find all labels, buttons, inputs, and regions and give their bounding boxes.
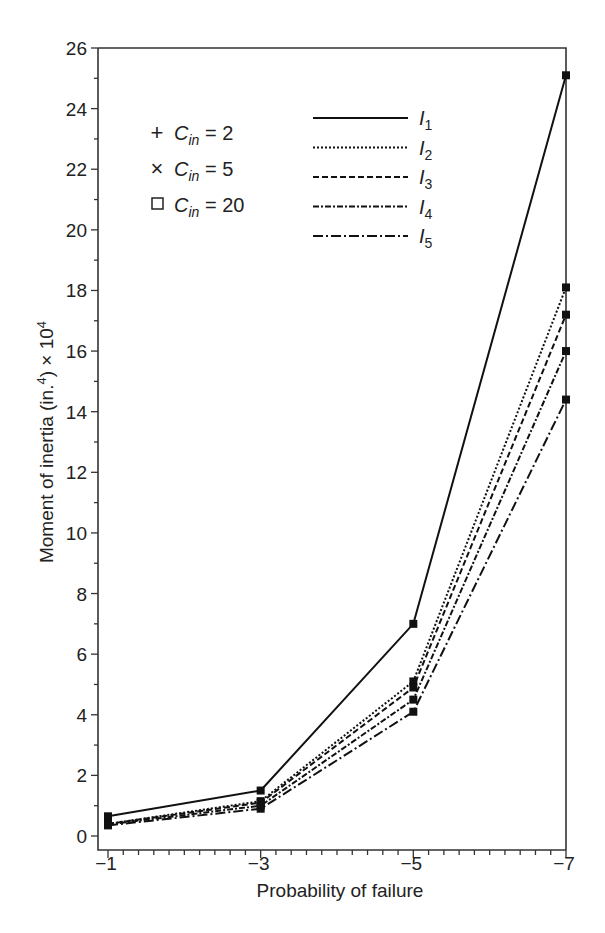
x-tick-label: −7 [553, 853, 575, 874]
y-tick-label: 20 [66, 220, 87, 241]
x-tick-label: −5 [400, 853, 422, 874]
series-line [108, 287, 566, 823]
series-i1 [104, 71, 570, 820]
plot-frame [98, 48, 566, 850]
data-point-marker [257, 787, 265, 795]
cross-marker-icon: × [151, 156, 164, 181]
x-axis-label: Probability of failure [257, 880, 424, 901]
line-legend-item: I2 [313, 137, 433, 163]
y-axis-ticks: 02468101214161820222426 [66, 38, 98, 847]
y-tick-label: 4 [76, 705, 87, 726]
y-tick-label: 18 [66, 280, 87, 301]
line-legend-item: I1 [313, 107, 433, 133]
line-legend-label: I2 [419, 137, 433, 163]
line-legend-item: I5 [313, 225, 433, 251]
data-point-marker [409, 620, 417, 628]
plus-marker-icon: + [151, 120, 164, 145]
series-i2 [104, 283, 570, 827]
data-series [104, 71, 570, 829]
marker-legend-item: +Cin = 2 [151, 120, 234, 148]
data-point-marker [409, 696, 417, 704]
y-axis-label: Moment of inertia (in.4) × 104 [34, 321, 57, 563]
data-point-marker [562, 396, 570, 404]
marker-legend-item: Cin = 20 [152, 194, 244, 220]
line-chart: 02468101214161820222426 −1−3−5−7 +Cin = … [0, 0, 605, 933]
data-point-marker [562, 71, 570, 79]
marker-legend-label: Cin = 20 [174, 194, 244, 220]
y-tick-label: 14 [66, 402, 88, 423]
y-tick-label: 12 [66, 462, 87, 483]
data-point-marker [562, 283, 570, 291]
line-legend-label: I1 [419, 107, 433, 133]
x-tick-label: −1 [95, 853, 117, 874]
series-line [108, 75, 566, 816]
y-tick-label: 16 [66, 341, 87, 362]
series-i4 [104, 347, 570, 828]
y-tick-label: 22 [66, 159, 87, 180]
series-i3 [104, 311, 570, 828]
data-point-marker [104, 812, 112, 820]
data-point-marker [409, 708, 417, 716]
line-legend: I1I2I3I4I5 [313, 107, 433, 251]
series-i5 [104, 396, 570, 830]
data-point-marker [257, 805, 265, 813]
y-tick-label: 10 [66, 523, 87, 544]
line-legend-label: I4 [419, 196, 433, 222]
y-tick-label: 8 [76, 584, 87, 605]
axes [98, 48, 566, 850]
x-axis-ticks: −1−3−5−7 [95, 850, 575, 874]
data-point-marker [562, 311, 570, 319]
marker-legend-label: Cin = 2 [174, 122, 233, 148]
line-legend-item: I4 [313, 196, 433, 222]
marker-legend: +Cin = 2×Cin = 5Cin = 20 [151, 120, 245, 220]
series-line [108, 351, 566, 824]
y-tick-label: 6 [76, 644, 87, 665]
y-tick-label: 24 [66, 99, 88, 120]
y-tick-label: 2 [76, 765, 87, 786]
series-line [108, 315, 566, 824]
x-tick-label: −3 [248, 853, 270, 874]
data-point-marker [409, 683, 417, 691]
data-point-marker [562, 347, 570, 355]
data-point-marker [104, 821, 112, 829]
line-legend-label: I3 [419, 166, 433, 192]
marker-legend-label: Cin = 5 [174, 158, 233, 184]
line-legend-label: I5 [419, 225, 433, 251]
line-legend-item: I3 [313, 166, 433, 192]
y-tick-label: 26 [66, 38, 87, 59]
square-marker-icon [152, 198, 163, 209]
marker-legend-item: ×Cin = 5 [151, 156, 234, 184]
y-tick-label: 0 [76, 826, 87, 847]
